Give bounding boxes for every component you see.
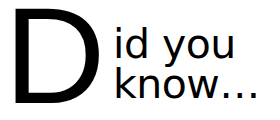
heading-line-2: know… — [113, 64, 260, 105]
drop-cap-letter: D — [4, 0, 104, 120]
heading-line-1: id you — [113, 24, 236, 65]
did-you-know-banner: D id you know… — [0, 0, 280, 120]
